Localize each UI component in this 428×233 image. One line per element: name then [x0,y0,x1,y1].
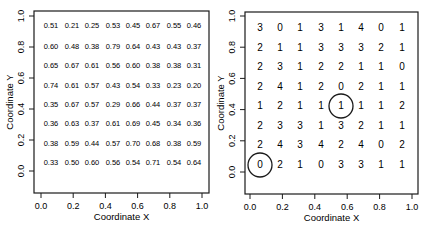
cell-value: 0.38 [167,61,182,70]
cell-value: 0.25 [85,21,100,30]
cell-value: 3 [297,139,303,150]
x-tick-label: 0.8 [164,201,177,211]
cell-value: 1 [257,100,263,111]
cell-value: 2 [399,100,405,111]
cell-value: 0 [277,22,283,33]
x-tick-label: 0.4 [309,202,322,212]
cell-value: 2 [257,81,263,92]
cell-value: 0.54 [126,158,141,167]
x-tick-label: 0.6 [131,201,144,211]
cell-value: 0.67 [146,21,161,30]
cell-value: 2 [257,42,263,53]
cell-value: 4 [277,139,283,150]
cell-value: 4 [277,81,283,92]
x-axis-title: Coordinate X [304,212,360,223]
cell-value: 1 [297,22,303,33]
y-tick-label: 0.2 [16,134,26,147]
cell-value: 1 [318,120,324,131]
cell-value: 1 [297,81,303,92]
cell-value: 1 [338,100,344,111]
cell-value: 2 [277,100,283,111]
cell-value: 0.34 [167,119,182,128]
cell-value: 0.45 [146,119,161,128]
y-tick-label: 0.6 [16,72,26,85]
cell-value: 0 [257,159,263,170]
cell-value: 0.43 [146,42,161,51]
cell-value: 3 [318,22,324,33]
cell-value: 0.56 [106,158,121,167]
plot-frame [245,12,418,194]
cell-value: 0.35 [44,100,59,109]
cell-value: 0.36 [187,119,202,128]
cell-value: 3 [318,42,324,53]
cell-value: 4 [358,22,364,33]
cell-value: 3 [358,159,364,170]
y-tick-label: 0.0 [16,165,26,178]
cell-value: 4 [318,139,324,150]
right-panel: 0.00.20.40.60.81.0Coordinate X0.00.20.40… [215,10,419,223]
cell-value: 0.57 [106,139,121,148]
cell-value: 0.37 [187,42,202,51]
cell-value: 0.60 [126,61,141,70]
cell-value: 1 [399,42,405,53]
cell-value: 2 [338,139,344,150]
cell-value: 0 [338,81,344,92]
cell-value: 1 [297,159,303,170]
cell-value: 0.23 [167,81,182,90]
cell-value: 1 [297,42,303,53]
cell-value: 1 [297,100,303,111]
cell-value: 1 [297,61,303,72]
cell-value: 0.54 [126,81,141,90]
cell-value: 0.21 [65,21,80,30]
cell-value: 0.48 [65,42,80,51]
cell-value: 3 [338,42,344,53]
cell-value: 0.63 [65,119,80,128]
cell-value: 0.69 [126,119,141,128]
cell-value: 0.61 [106,119,121,128]
cell-value: 0 [399,61,405,72]
cell-value: 2 [257,139,263,150]
y-tick-label: 0.8 [227,41,237,54]
cell-value: 3 [297,120,303,131]
cell-value: 0.60 [44,42,59,51]
cell-value: 1 [378,159,384,170]
x-tick-label: 0.0 [244,202,257,212]
cell-value: 1 [399,120,405,131]
cell-value: 0.51 [44,21,59,30]
cell-value: 0.43 [106,81,121,90]
x-axis-title: Coordinate X [94,211,150,222]
cell-value: 0.67 [65,61,80,70]
cell-value: 0.43 [167,42,182,51]
cell-value: 1 [318,100,324,111]
cell-value: 0.38 [167,139,182,148]
chart-canvas: 0.00.20.40.60.81.0Coordinate X0.00.20.40… [0,0,428,233]
cell-value: 1 [378,61,384,72]
cell-value: 3 [277,61,283,72]
cell-value: 0.61 [85,61,100,70]
cell-value: 0.59 [187,139,202,148]
cell-value: 0.29 [106,100,121,109]
cell-value: 0.79 [106,42,121,51]
y-tick-label: 0.0 [227,166,237,179]
x-tick-label: 0.2 [276,202,289,212]
cell-value: 0.33 [44,158,59,167]
cell-value: 0.66 [126,100,141,109]
cell-value: 3 [338,159,344,170]
cell-value: 0.54 [167,158,182,167]
cell-value: 1 [358,61,364,72]
cell-value: 0 [378,139,384,150]
cell-value: 0.50 [65,158,80,167]
cell-value: 0.44 [85,139,100,148]
x-tick-label: 0.4 [99,201,112,211]
y-tick-label: 1.0 [227,10,237,23]
y-tick-label: 0.6 [227,72,237,85]
cell-value: 2 [318,61,324,72]
cell-value: 0.45 [126,21,141,30]
left-panel: 0.00.20.40.60.81.0Coordinate X0.00.20.40… [4,10,209,222]
cell-value: 1 [378,100,384,111]
cell-value: 2 [358,120,364,131]
cell-value: 0.57 [85,81,100,90]
x-tick-label: 0.2 [67,201,80,211]
cell-value: 3 [277,120,283,131]
cell-value: 1 [399,159,405,170]
